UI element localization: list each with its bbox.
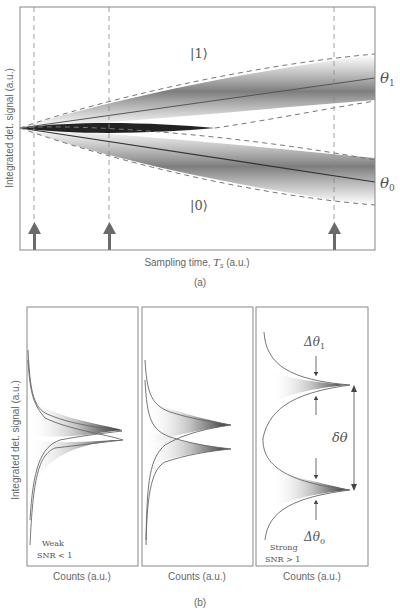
- y-axis-label-a: Integrated det. signal (a.u.): [4, 68, 15, 188]
- y-axis-label-b: Integrated det. signal (a.u.): [10, 380, 21, 500]
- subpanel-medium: Counts (a.u.): [142, 307, 253, 582]
- arrow-up-icon: [328, 222, 341, 250]
- svg-text:SNR < 1: SNR < 1: [37, 551, 72, 560]
- theta0-label: θ0: [380, 174, 395, 193]
- delta-theta1-label: Δθ1: [303, 335, 325, 351]
- arrow-up-icon: [28, 222, 41, 250]
- subpanel-strong: Δθ1 Δθ0 δθ Strong SNR > 1 Counts (a.u.): [256, 307, 368, 582]
- state-1-label: |1⟩: [190, 46, 208, 61]
- subpanel-weak: Weak SNR < 1 Counts (a.u.): [27, 307, 138, 582]
- separation-label: δθ: [332, 430, 348, 445]
- theta1-label: θ1: [380, 69, 395, 88]
- x-axis-label-b3: Counts (a.u.): [283, 571, 341, 582]
- svg-text:Weak: Weak: [42, 539, 64, 548]
- state-0-label: |0⟩: [190, 198, 208, 213]
- x-axis-label-a: Sampling time, Ts (a.u.): [144, 257, 249, 269]
- x-axis-label-b1: Counts (a.u.): [53, 571, 111, 582]
- separation-arrow: [351, 385, 357, 491]
- band-state-0: [20, 128, 375, 205]
- caption-b: (b): [194, 597, 206, 608]
- figure: |1⟩ |0⟩ θ1 θ0 Integrated det. signal (a.…: [0, 0, 400, 616]
- delta-theta0-label: Δθ0: [303, 530, 325, 546]
- panel-a: |1⟩ |0⟩ θ1 θ0 Integrated det. signal (a.…: [4, 7, 395, 288]
- panel-b: Integrated det. signal (a.u.) Weak SNR <…: [10, 307, 368, 608]
- arrow-up-icon: [103, 222, 116, 250]
- svg-text:Strong: Strong: [270, 543, 298, 552]
- x-axis-label-b2: Counts (a.u.): [168, 571, 226, 582]
- svg-text:SNR > 1: SNR > 1: [265, 555, 300, 564]
- sampling-arrows: [28, 222, 341, 250]
- caption-a: (a): [194, 277, 206, 288]
- band-state-1: [20, 55, 375, 128]
